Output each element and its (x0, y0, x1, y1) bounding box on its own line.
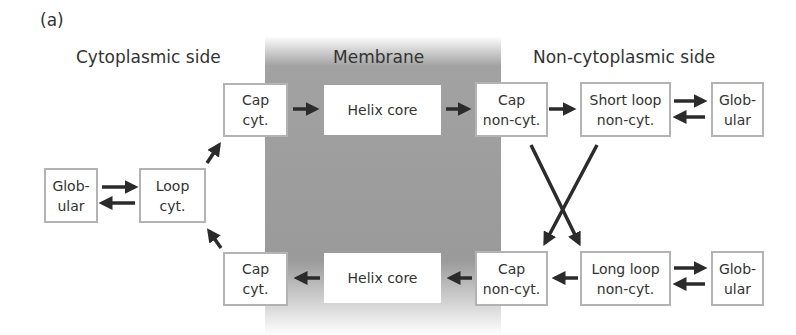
node-label: Helix core (348, 100, 418, 120)
node-label: Cap (498, 259, 525, 279)
node-label: Glob- (52, 176, 89, 196)
node-label: non-cyt. (483, 110, 540, 130)
node-long-loop-noncyt: Long loop non-cyt. (580, 251, 671, 306)
node-globular-noncyt-bottom: Glob- ular (711, 251, 764, 306)
node-label: ular (57, 196, 84, 216)
node-label: Cap (242, 90, 269, 110)
node-label: Glob- (719, 259, 756, 279)
node-label: Cap (498, 90, 525, 110)
node-label: Long loop (591, 259, 659, 279)
node-label: non-cyt. (597, 279, 654, 299)
node-globular-cyt: Glob- ular (44, 168, 98, 223)
node-short-loop-noncyt: Short loop non-cyt. (580, 82, 671, 137)
node-helix-core-top: Helix core (324, 85, 441, 135)
node-cap-cyt-bottom: Cap cyt. (223, 252, 288, 306)
node-loop-cyt: Loop cyt. (139, 168, 206, 223)
node-label: Loop (156, 176, 190, 196)
node-label: Short loop (590, 90, 662, 110)
node-cap-noncyt-top: Cap non-cyt. (475, 82, 548, 137)
node-label: Cap (242, 259, 269, 279)
node-label: Glob- (719, 90, 756, 110)
arrow-cap-cyt-bottom-to-loop-cyt (209, 231, 221, 248)
node-label: non-cyt. (483, 279, 540, 299)
node-globular-noncyt-top: Glob- ular (711, 82, 764, 137)
node-label: cyt. (243, 110, 269, 130)
node-cap-noncyt-bottom: Cap non-cyt. (475, 251, 548, 306)
node-label: cyt. (160, 196, 186, 216)
node-label: ular (724, 279, 751, 299)
node-label: non-cyt. (597, 110, 654, 130)
node-label: cyt. (243, 279, 269, 299)
node-helix-core-bottom: Helix core (324, 253, 441, 303)
arrow-loop-cyt-to-cap-cyt-top (207, 145, 219, 163)
node-label: Helix core (348, 268, 418, 288)
node-cap-cyt-top: Cap cyt. (223, 83, 288, 137)
node-label: ular (724, 110, 751, 130)
